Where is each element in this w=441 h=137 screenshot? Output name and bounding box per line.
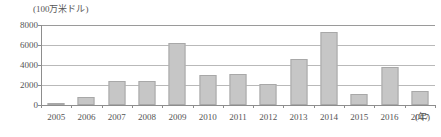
x-tick-label-2010: 2010 [199, 112, 217, 123]
x-tick-mark [405, 105, 406, 108]
x-axis-unit-label: (年) [415, 112, 430, 123]
bar-2009 [169, 43, 186, 105]
y-tick-label-4000: 4000 [0, 61, 38, 70]
bar-slot [223, 25, 253, 105]
x-tick-label-2012: 2012 [259, 112, 277, 123]
bar-2011 [229, 74, 246, 106]
bar-slot [71, 25, 101, 105]
x-tick-label-2005: 2005 [47, 112, 65, 123]
x-tick-mark [283, 105, 284, 108]
x-tick-label-2011: 2011 [229, 112, 247, 123]
x-tick-mark [374, 105, 375, 108]
x-tick-label-2013: 2013 [290, 112, 308, 123]
bar-slot [41, 25, 71, 105]
x-tick-label-2015: 2015 [350, 112, 368, 123]
x-tick-mark [435, 105, 436, 108]
bar-slot [344, 25, 374, 105]
bar-chart: (100万米ドル) 02000400060008000 200520062007… [0, 0, 441, 137]
bars-layer [41, 25, 435, 105]
y-tick-label-6000: 6000 [0, 41, 38, 50]
bar-2008 [139, 81, 156, 106]
x-tick-mark [223, 105, 224, 108]
bar-2012 [260, 84, 277, 105]
bar-slot [102, 25, 132, 105]
bar-slot [193, 25, 223, 105]
x-tick-label-2008: 2008 [138, 112, 156, 123]
bar-slot [374, 25, 404, 105]
x-tick-label-2009: 2009 [168, 112, 186, 123]
x-tick-mark [193, 105, 194, 108]
x-tick-mark [314, 105, 315, 108]
bar-slot [253, 25, 283, 105]
bar-slot [314, 25, 344, 105]
bar-2013 [290, 59, 307, 106]
bar-slot [132, 25, 162, 105]
y-tick-label-8000: 8000 [0, 21, 38, 30]
y-axis-tick-labels: 02000400060008000 [0, 0, 38, 137]
x-tick-mark [71, 105, 72, 108]
y-tick-label-2000: 2000 [0, 81, 38, 90]
chart-unit-caption: (100万米ドル) [33, 4, 89, 15]
y-tick-label-0: 0 [0, 101, 38, 110]
x-tick-mark [102, 105, 103, 108]
x-tick-mark [253, 105, 254, 108]
x-tick-label-2014: 2014 [320, 112, 338, 123]
x-tick-mark [344, 105, 345, 108]
x-tick-mark [41, 105, 42, 108]
x-tick-mark [132, 105, 133, 108]
x-axis-tick-labels: 2005200620072008200920102011201220132014… [41, 112, 435, 126]
bar-2017 [411, 91, 428, 105]
x-tick-label-2006: 2006 [77, 112, 95, 123]
bar-2016 [381, 67, 398, 105]
x-tick-mark [162, 105, 163, 108]
bar-slot [162, 25, 192, 105]
bar-2006 [78, 97, 95, 105]
x-tick-label-2007: 2007 [108, 112, 126, 123]
bar-2015 [351, 94, 368, 105]
bar-slot [283, 25, 313, 105]
bar-2007 [108, 81, 125, 105]
x-tick-label-2016: 2016 [381, 112, 399, 123]
x-axis-ticks [41, 105, 435, 110]
bar-slot [405, 25, 435, 105]
bar-2010 [199, 75, 216, 106]
bar-2014 [320, 32, 337, 105]
